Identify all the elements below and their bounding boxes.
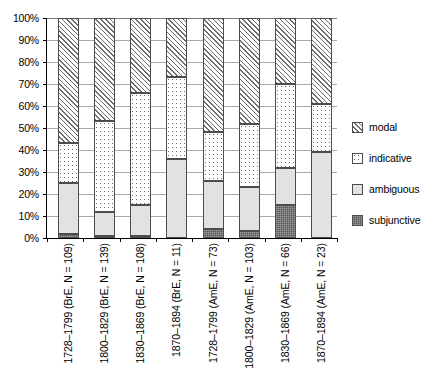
y-axis-tick-label: 0% (0, 233, 39, 244)
bar-segment-ambiguous (311, 152, 332, 238)
y-axis-tick-label: 30% (0, 167, 39, 178)
x-axis-tickmark (337, 238, 338, 242)
x-axis-tickmark (192, 238, 193, 242)
y-axis-tickmark (43, 62, 47, 63)
bar-segment-modal (130, 18, 151, 93)
bar-segment-ambiguous (275, 168, 296, 205)
y-axis-tick-label: 20% (0, 189, 39, 200)
y-axis-tickmark (43, 150, 47, 151)
x-axis-tickmark (301, 238, 302, 242)
y-axis-tick-label: 40% (0, 145, 39, 156)
bar-column (239, 18, 260, 238)
x-axis-label-text: 1800–1829 (AmE, N = 103) (243, 243, 254, 369)
x-axis-label: 1728–1799 (BrE, N = 109) (61, 243, 75, 379)
legend-item-subjunctive: subjunctive (352, 205, 444, 236)
bar-segment-indicative (166, 77, 187, 158)
legend-item-label: subjunctive (369, 215, 420, 226)
x-axis-label: 1870–1894 (BrE, N = 11) (169, 243, 183, 379)
y-axis-tickmark (43, 216, 47, 217)
bar-segment-indicative (58, 143, 79, 183)
bar-column (94, 18, 115, 238)
bar-segment-indicative (130, 93, 151, 205)
bar-segment-subjunctive (275, 205, 296, 238)
y-axis-tickmark (43, 40, 47, 41)
x-axis-tickmark (265, 238, 266, 242)
bar-segment-ambiguous (166, 159, 187, 238)
bar-segment-modal (58, 18, 79, 143)
legend-item-modal: modal (352, 112, 444, 143)
y-axis-tickmark (43, 18, 47, 19)
y-axis-tickmark (43, 106, 47, 107)
x-axis-label-text: 1870–1894 (AmE, N = 23) (315, 243, 326, 363)
bar-segment-modal (275, 18, 296, 84)
bar-segment-indicative (94, 121, 115, 211)
y-axis-tickmark (43, 194, 47, 195)
x-axis-label: 1728–1799 (AmE, N = 73) (206, 243, 220, 379)
bar-segment-modal (94, 18, 115, 121)
ambiguous-swatch (352, 184, 363, 195)
legend-item-ambiguous: ambiguous (352, 174, 444, 205)
bar-segment-subjunctive (130, 236, 151, 238)
x-axis-tickmark (120, 238, 121, 242)
x-axis-label-text: 1870–1894 (BrE, N = 11) (170, 243, 181, 357)
x-axis-label: 1830–1869 (BrE, N = 108) (133, 243, 147, 379)
y-axis-tick-label: 60% (0, 101, 39, 112)
bar-segment-ambiguous (130, 205, 151, 236)
bar-segment-indicative (275, 84, 296, 168)
bar-column (58, 18, 79, 238)
legend-item-label: indicative (369, 153, 412, 164)
bar-segment-indicative (203, 132, 224, 180)
legend: modalindicativeambiguoussubjunctive (352, 112, 444, 236)
bar-segment-subjunctive (94, 236, 115, 238)
bar-segment-modal (166, 18, 187, 77)
subjunctive-swatch (352, 215, 363, 226)
x-axis-label: 1800–1829 (AmE, N = 103) (242, 243, 256, 379)
bar-segment-ambiguous (239, 187, 260, 231)
bar-segment-indicative (311, 104, 332, 152)
bar-column (203, 18, 224, 238)
y-axis-tickmark (43, 172, 47, 173)
bar-segment-subjunctive (203, 229, 224, 238)
bar-segment-ambiguous (94, 212, 115, 236)
bar-column (130, 18, 151, 238)
y-axis-tick-label: 70% (0, 79, 39, 90)
x-axis-label: 1830–1869 (AmE, N = 66) (278, 243, 292, 379)
bar-column (166, 18, 187, 238)
modal-swatch (352, 122, 363, 133)
bar-segment-modal (311, 18, 332, 104)
x-axis-label-text: 1830–1869 (BrE, N = 108) (134, 243, 145, 363)
x-axis-label: 1800–1829 (BrE, N = 139) (97, 243, 111, 379)
bar-segment-modal (203, 18, 224, 132)
x-axis-label-text: 1728–1799 (BrE, N = 109) (62, 243, 73, 363)
y-axis-tick-label: 90% (0, 35, 39, 46)
bar-segment-subjunctive (239, 231, 260, 238)
y-axis-tick-label: 10% (0, 211, 39, 222)
legend-item-label: modal (369, 122, 397, 133)
x-axis-tickmark (83, 238, 84, 242)
y-axis: 0%10%20%30%40%50%60%70%80%90%100% (0, 10, 42, 246)
indicative-swatch (352, 153, 363, 164)
x-axis-tickmark (156, 238, 157, 242)
bar-segment-ambiguous (203, 181, 224, 229)
x-axis-label: 1870–1894 (AmE, N = 23) (314, 243, 328, 379)
y-axis-tickmark (43, 128, 47, 129)
bar-segment-modal (239, 18, 260, 124)
x-axis-label-text: 1830–1869 (AmE, N = 66) (279, 243, 290, 363)
y-axis-tick-label: 80% (0, 57, 39, 68)
plot-area (46, 18, 337, 239)
x-axis-tickmark (47, 238, 48, 242)
y-axis-tick-label: 100% (0, 13, 39, 24)
bar-column (311, 18, 332, 238)
bar-segment-ambiguous (58, 183, 79, 234)
x-axis: 1728–1799 (BrE, N = 109)1800–1829 (BrE, … (46, 243, 336, 381)
y-axis-tickmark (43, 84, 47, 85)
bar-segment-indicative (239, 124, 260, 188)
bar-segment-subjunctive (58, 234, 79, 238)
x-axis-label-text: 1728–1799 (AmE, N = 73) (207, 243, 218, 363)
legend-item-label: ambiguous (369, 184, 419, 195)
legend-item-indicative: indicative (352, 143, 444, 174)
y-axis-tick-label: 50% (0, 123, 39, 134)
x-axis-tickmark (228, 238, 229, 242)
x-axis-label-text: 1800–1829 (BrE, N = 139) (98, 243, 109, 363)
bar-column (275, 18, 296, 238)
